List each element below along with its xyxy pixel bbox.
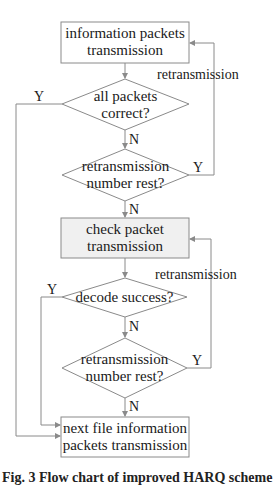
- all-correct-line2: correct?: [62, 105, 189, 122]
- all-correct-text: all packets correct?: [62, 88, 189, 122]
- retx-rest-1-line2: number rest?: [62, 175, 189, 192]
- y-label-all-correct: Y: [34, 88, 44, 105]
- y-label-decode: Y: [47, 281, 57, 298]
- check-tx-line2: transmission: [61, 238, 189, 255]
- decode-ok-line1: decode success?: [62, 289, 187, 306]
- next-file-line1: next file information: [61, 420, 189, 437]
- n-label-retx-2: N: [129, 398, 139, 415]
- retransmission-label-1: retransmission: [157, 66, 239, 83]
- retx-rest-1-line1: retransmission: [62, 158, 189, 175]
- retx-rest-1-text: retransmission number rest?: [62, 158, 189, 192]
- decode-ok-text: decode success?: [62, 289, 187, 306]
- retx-rest-2-line2: number rest?: [62, 368, 187, 385]
- next-file-text: next file information packets transmissi…: [61, 420, 189, 454]
- next-file-line2: packets transmission: [61, 437, 189, 454]
- y-label-retx-2: Y: [192, 352, 202, 369]
- n-label-retx-1: N: [129, 201, 139, 218]
- y-label-retx-1: Y: [193, 159, 203, 176]
- check-tx-line1: check packet: [61, 221, 189, 238]
- n-label-decode: N: [129, 318, 139, 335]
- info-tx-line2: transmission: [61, 42, 189, 59]
- info-tx-line1: information packets: [61, 25, 189, 42]
- retransmission-label-2: retransmission: [155, 266, 237, 283]
- figure-caption: Fig. 3 Flow chart of improved HARQ schem…: [2, 470, 272, 486]
- check-tx-text: check packet transmission: [61, 221, 189, 255]
- retx-rest-2-text: retransmission number rest?: [62, 351, 187, 385]
- all-correct-line1: all packets: [62, 88, 189, 105]
- retx-rest-2-line1: retransmission: [62, 351, 187, 368]
- info-tx-text: information packets transmission: [61, 25, 189, 59]
- n-label-all-correct: N: [129, 131, 139, 148]
